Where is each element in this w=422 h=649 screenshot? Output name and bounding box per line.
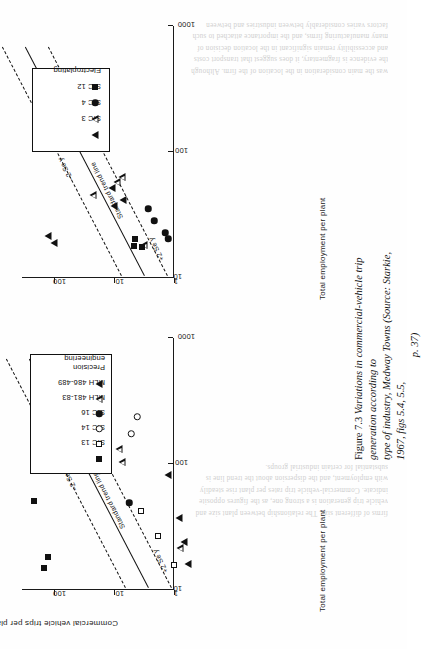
data-point [165,471,172,479]
y-tick-label-100: 100 [53,589,66,598]
x-tick-label-100: 100 [175,146,188,155]
data-point [128,431,135,438]
chart-left: 10 100 1000 1 10 100 Standard trend line… [16,324,202,624]
data-point [151,218,158,225]
x-axis-title-left-chart: Total employment per plant [318,509,327,612]
data-point [126,500,133,507]
data-point [165,236,172,243]
data-point [90,191,97,199]
data-point [139,244,145,250]
data-point [41,565,47,571]
y-axis-title: Commercial vehicle trips per plant per d… [0,619,118,628]
data-point [119,458,126,466]
y-tick-label-10: 10 [115,277,124,286]
data-point [51,239,58,247]
data-point [132,236,138,242]
standard-trend-line-label: Standard trend line [91,471,126,530]
x-tick-label-1000: 1000 [178,332,196,341]
chart-right-plot-area: Standard trend line +2 Se y –2 Se y [22,26,172,278]
data-point [171,562,177,568]
y-tick-label-1: 1 [174,277,178,286]
lower-band-label: –2 Se y [56,156,74,182]
y-tick-label-100: 100 [53,277,66,286]
data-point [155,533,161,539]
data-point [31,498,37,504]
x-axis-title-right-chart: Total employment per plant [318,197,327,300]
data-point [111,202,118,210]
chart-right: 10 100 1000 1 10 100 Standard trend line… [16,12,202,312]
figure-caption: Figure 7.3 Variations in commercial-vehi… [352,230,422,460]
y-tick-label-1: 1 [174,589,178,598]
data-point [181,538,188,546]
chart-left-x-axis [173,338,174,590]
data-point [176,514,183,522]
data-point [162,230,169,237]
upper-band-label: +2 Se y [151,548,169,574]
x-tick-label-1000: 1000 [178,20,196,29]
data-point [120,196,127,204]
data-point [116,445,123,453]
data-point [119,173,126,181]
caption-number: Figure 7.3 [353,417,364,460]
data-point [185,560,192,568]
upper-band-label: +2 Se y [147,236,165,262]
data-point [145,206,152,213]
data-point [131,243,137,249]
data-point [45,232,52,240]
caption-line-3: p. 37) [409,333,420,358]
data-point [45,554,51,560]
legend-left-chart: SIC 13 SIC 14 SIC 16 MLH 481-83 MLH 486-… [30,354,112,474]
y-tick-label-10: 10 [115,589,124,598]
x-tick-label-100: 100 [175,458,188,467]
chart-right-x-axis [173,26,174,278]
caption-line-2: type of industry, Medway Towns (Source: … [381,252,406,460]
legend-right-chart: SIC 3 SIC 4 SIC 12 Electroplating [32,68,110,152]
data-point [138,508,144,514]
data-point [134,414,141,421]
